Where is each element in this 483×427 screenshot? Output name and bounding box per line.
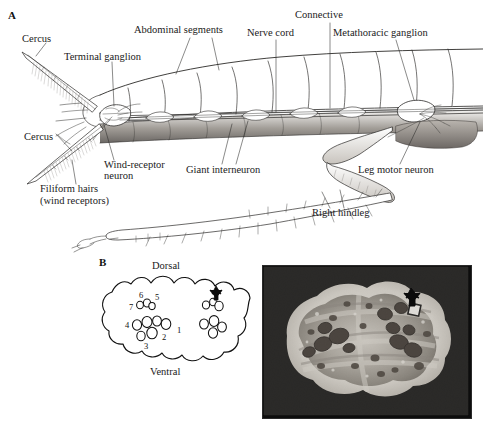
label-giant-interneuron: Giant interneuron [186, 164, 260, 176]
micrograph-panel [262, 265, 472, 419]
gi-number-1: 1 [177, 325, 181, 335]
gi-number-2: 2 [162, 332, 166, 342]
label-abdominal-segments: Abdominal segments [134, 24, 223, 36]
figure-root: A [0, 0, 483, 427]
label-cercus-upper: Cercus [22, 33, 51, 45]
label-wind-receptor-neuron-line2: neuron [104, 170, 133, 182]
gi-number-5: 5 [155, 292, 159, 302]
label-connective: Connective [295, 9, 343, 21]
gi-number-3: 3 [144, 341, 148, 351]
label-filiform-hairs: Filiform hairs [40, 183, 98, 195]
panel-a-illustration [0, 0, 483, 260]
gi-number-6: 6 [139, 290, 143, 300]
label-wind-receptor-neuron: Wind-receptor [104, 159, 165, 171]
label-dorsal: Dorsal [152, 260, 180, 272]
label-cercus-lower: Cercus [24, 131, 53, 143]
gi-number-4: 4 [125, 320, 129, 330]
panel-b-letter: B [99, 256, 106, 268]
gi-number-7: 7 [129, 302, 133, 312]
label-leg-motor-neuron: Leg motor neuron [358, 164, 434, 176]
micrograph-image [263, 266, 469, 416]
label-nerve-cord: Nerve cord [247, 27, 294, 39]
label-metathoracic-ganglion: Metathoracic ganglion [333, 27, 428, 39]
label-right-hindleg: Right hindleg [312, 207, 369, 219]
panel-a-letter: A [8, 9, 16, 21]
label-ventral: Ventral [150, 366, 180, 378]
label-terminal-ganglion: Terminal ganglion [64, 51, 141, 63]
label-filiform-hairs-line2: (wind receptors) [40, 195, 109, 207]
